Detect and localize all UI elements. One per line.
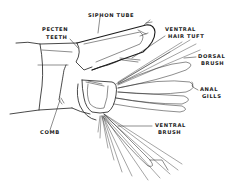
label-comb: COMB — [40, 129, 60, 135]
label-anal-gills-line1: ANAL — [200, 86, 218, 92]
label-ventral-hair-tuft-line1: VENTRAL — [165, 26, 196, 32]
anal-gills-leader — [192, 82, 198, 90]
label-pecten-teeth-line2: TEETH — [46, 34, 68, 40]
ventral-hair-tuft-leader — [132, 36, 165, 58]
dorsal-brush-leader — [184, 57, 196, 58]
comb-scales — [59, 65, 66, 104]
label-anal-gills-line2: GILLS — [202, 93, 222, 99]
anal-gills — [114, 62, 193, 112]
label-pecten-teeth-line1: PECTEN — [42, 26, 68, 32]
siphon-tube-leader — [98, 17, 100, 33]
label-dorsal-brush-line1: DORSAL — [198, 53, 225, 59]
anal-segment — [77, 80, 116, 120]
comb-leader — [50, 100, 60, 130]
label-siphon-tube: SIPHON TUBE — [88, 12, 134, 18]
larva-diagram: SIPHON TUBE PECTEN TEETH VENTRAL HAIR TU… — [0, 0, 232, 189]
label-ventral-brush-line2: BRUSH — [158, 129, 181, 135]
label-ventral-brush-line1: VENTRAL — [155, 122, 186, 128]
abdominal-segment — [10, 42, 92, 114]
label-ventral-hair-tuft-line2: HAIR TUFT — [168, 33, 204, 39]
label-dorsal-brush-line2: BRUSH — [201, 60, 224, 66]
siphon-tube — [77, 20, 155, 70]
